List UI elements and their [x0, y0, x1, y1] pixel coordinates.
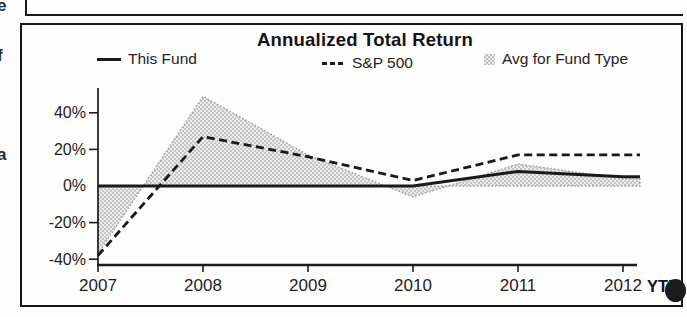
- y-axis-tick-label: -40%: [26, 250, 86, 269]
- y-axis-tick-label: 20%: [26, 140, 86, 159]
- y-axis-tick-label: 40%: [26, 103, 86, 122]
- x-axis-tick-label: 2008: [171, 276, 235, 296]
- y-axis-tick-label: -20%: [26, 213, 86, 232]
- x-axis-tick-label: 2007: [66, 276, 130, 296]
- y-axis-tick-label: 0%: [26, 176, 86, 195]
- avg-fund-type-area: [98, 96, 640, 253]
- x-axis-tick-label: 2011: [486, 276, 550, 296]
- scan-artifact-blob: [665, 279, 686, 302]
- x-axis-tick-label: 2010: [381, 276, 445, 296]
- x-axis-tick-label: 2012: [591, 276, 655, 296]
- x-axis-tick-label: 2009: [276, 276, 340, 296]
